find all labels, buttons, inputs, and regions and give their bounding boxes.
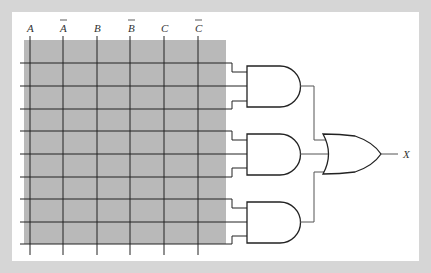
and-gate-1 [247,66,301,107]
input-labels: A A B B C C [26,20,203,34]
label-a: A [26,22,34,34]
and-gate-2 [247,134,300,175]
programmable-array [24,40,226,244]
label-b-not: B [128,22,135,34]
pla-diagram: A A B B C C [0,0,431,273]
output-label: X [402,148,411,160]
label-c: C [161,22,169,34]
or-inputs [300,86,331,222]
label-a-not: A [59,22,67,34]
or-gate [323,134,381,174]
and-gate-3 [247,202,301,243]
label-c-not: C [195,22,203,34]
label-b: B [94,22,101,34]
